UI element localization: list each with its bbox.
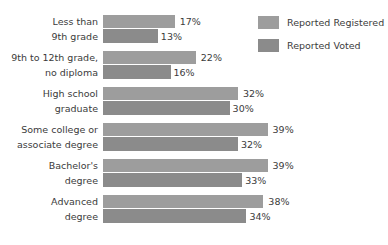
bar-value-label: 16% (171, 65, 197, 80)
bar-value-label: 33% (242, 173, 268, 188)
bar-group: 9th to 12th grade,no diploma22%16% (0, 50, 388, 80)
bar-group: Some college orassociate degree39%32% (0, 122, 388, 152)
category-label-line: degree (0, 173, 98, 188)
bar-value-label: 13% (158, 29, 184, 44)
bar-group: Advanceddegree38%34% (0, 194, 388, 224)
bar-voted (103, 65, 171, 79)
category-label-line: 9th to 12th grade, (0, 50, 98, 65)
grouped-bar-chart: Reported Registered Reported Voted Less … (0, 0, 388, 245)
bar-value-label: 32% (238, 86, 264, 101)
bar-row-registered: 22% (103, 50, 388, 65)
bar-pair: 39%32% (103, 122, 388, 152)
category-label-line: Some college or (0, 122, 98, 137)
category-label: Less than9th grade (0, 14, 98, 44)
category-label-line: 9th grade (0, 29, 98, 44)
bar-registered (103, 123, 268, 136)
category-label: High schoolgraduate (0, 86, 98, 116)
category-label: Advanceddegree (0, 194, 98, 224)
bar-row-registered: 32% (103, 86, 388, 101)
bar-value-label: 34% (246, 209, 272, 224)
bar-row-voted: 30% (103, 101, 388, 116)
bar-row-registered: 38% (103, 194, 388, 209)
bar-row-registered: 17% (103, 14, 388, 29)
category-label-line: degree (0, 209, 98, 224)
category-label-line: associate degree (0, 137, 98, 152)
bar-value-label: 39% (268, 158, 294, 173)
bar-row-voted: 34% (103, 209, 388, 224)
bar-group: Bachelor'sdegree39%33% (0, 158, 388, 188)
category-label-line: no diploma (0, 65, 98, 80)
bar-registered (103, 51, 196, 64)
bar-row-voted: 16% (103, 65, 388, 80)
bar-row-voted: 32% (103, 137, 388, 152)
bar-voted (103, 101, 230, 115)
category-label-line: Bachelor's (0, 158, 98, 173)
bar-row-voted: 13% (103, 29, 388, 44)
bar-registered (103, 159, 268, 172)
bar-row-voted: 33% (103, 173, 388, 188)
bar-registered (103, 15, 175, 28)
bar-value-label: 17% (175, 14, 201, 29)
bar-pair: 38%34% (103, 194, 388, 224)
chart-plot-area: Less than9th grade17%13%9th to 12th grad… (0, 14, 388, 230)
bar-registered (103, 87, 238, 100)
bar-voted (103, 173, 242, 187)
bar-value-label: 39% (268, 122, 294, 137)
bar-registered (103, 195, 263, 208)
bar-pair: 32%30% (103, 86, 388, 116)
category-label: Bachelor'sdegree (0, 158, 98, 188)
bar-pair: 22%16% (103, 50, 388, 80)
bar-pair: 17%13% (103, 14, 388, 44)
category-label: Some college orassociate degree (0, 122, 98, 152)
bar-value-label: 38% (263, 194, 289, 209)
bar-value-label: 30% (230, 101, 256, 116)
bar-value-label: 32% (238, 137, 264, 152)
category-label: 9th to 12th grade,no diploma (0, 50, 98, 80)
bar-row-registered: 39% (103, 158, 388, 173)
category-label-line: High school (0, 86, 98, 101)
bar-group: High schoolgraduate32%30% (0, 86, 388, 116)
category-label-line: graduate (0, 101, 98, 116)
bar-pair: 39%33% (103, 158, 388, 188)
bar-group: Less than9th grade17%13% (0, 14, 388, 44)
category-label-line: Less than (0, 14, 98, 29)
bar-voted (103, 29, 158, 43)
bar-voted (103, 209, 246, 223)
category-label-line: Advanced (0, 194, 98, 209)
bar-row-registered: 39% (103, 122, 388, 137)
bar-value-label: 22% (196, 50, 222, 65)
bar-voted (103, 137, 238, 151)
